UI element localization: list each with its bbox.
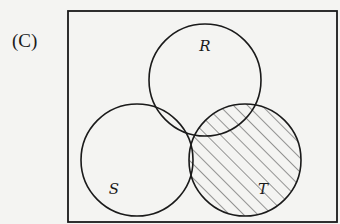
set-label-s: S — [109, 180, 119, 198]
set-label-t: T — [258, 180, 269, 198]
venn-diagram-figure: (C) RST — [0, 0, 340, 224]
set-circle-s — [81, 104, 193, 216]
venn-diagram: RST — [0, 0, 340, 224]
set-label-r: R — [198, 37, 210, 55]
